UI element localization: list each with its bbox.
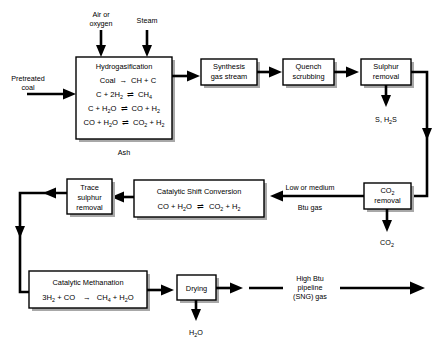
product-output-arrow: [340, 282, 425, 295]
synthesis-gas-label-line1: Synthesis: [213, 62, 245, 71]
methanation-to-drying-arrow: [147, 285, 174, 296]
air-oxygen-input-arrow: [96, 30, 106, 57]
quench-to-sulphur-arrow: [334, 67, 359, 78]
methanation-title: Catalytic Methanation: [52, 278, 123, 287]
drying-to-product-arrow: [216, 283, 243, 294]
low-btu-gas-label-line2: Btu gas: [298, 203, 323, 212]
methanation-equation: 3H2 + CO→CH4 + H2O: [42, 293, 133, 303]
shift-conversion-title: Catalytic Shift Conversion: [157, 187, 242, 196]
synthesis-gas-label-line2: gas stream: [211, 72, 248, 81]
water-byproduct-arrow: [191, 300, 201, 321]
steam-label: Steam: [137, 16, 158, 25]
air-oxygen-label-line1: Air or: [92, 10, 110, 19]
shift-conversion-equation: CO + H2O⇌CO2 + H2: [158, 202, 241, 212]
co2-byproduct-label: CO2: [380, 238, 394, 248]
air-oxygen-label-line2: oxygen: [89, 19, 112, 28]
high-btu-label-line2: pipeline: [298, 283, 323, 292]
trace-sulphur-label-line2: sulphur: [77, 193, 102, 202]
hydrogasification-title: Hydrogasification: [96, 62, 153, 71]
process-flow-diagram: Air or oxygen Steam Pretreated coal Hydr…: [0, 0, 435, 344]
catalytic-shift-conversion-box[interactable]: [134, 180, 264, 217]
high-btu-label-line3: (SNG) gas: [293, 292, 327, 301]
quench-label-line1: Quench: [296, 62, 322, 71]
trace-sulphur-label-line1: Trace: [80, 183, 99, 192]
flow-diagram-canvas: Air or oxygen Steam Pretreated coal Hydr…: [0, 0, 435, 344]
ash-output-label: Ash: [118, 148, 130, 157]
pretreated-coal-label-line2: coal: [21, 83, 35, 92]
sulphur-removal-label-line2: removal: [373, 72, 400, 81]
drying-label: Drying: [186, 284, 207, 293]
pretreated-coal-label-line1: Pretreated: [11, 74, 45, 83]
low-btu-gas-label-line1: Low or medium: [285, 183, 334, 192]
hydrogasification-equation-3: C + H2O⇌CO + H2: [88, 104, 160, 114]
trace-sulphur-label-line3: removal: [76, 203, 103, 212]
co2-to-shift-arrow: [270, 191, 364, 202]
sulphur-byproduct-label: S, H2S: [375, 115, 397, 125]
sulphur-removal-label-line1: Sulphur: [373, 62, 399, 71]
catalytic-methanation-box[interactable]: [29, 271, 147, 308]
steam-input-arrow: [142, 30, 152, 57]
high-btu-label-line1: High Btu: [296, 274, 324, 283]
synthesis-to-quench-arrow: [257, 67, 282, 78]
sulphur-to-co2-route: [411, 72, 432, 196]
co2-byproduct-arrow: [382, 209, 392, 232]
co2-removal-label-line2: removal: [374, 196, 401, 205]
quench-label-line2: scrubbing: [292, 72, 324, 81]
hydrogasification-to-synthesis-arrow: [172, 71, 200, 82]
hydrogasification-equation-4: CO + H2O⇌CO2 + H2: [84, 118, 165, 128]
sulphur-byproduct-arrow: [381, 85, 391, 107]
water-byproduct-label: H2O: [189, 328, 203, 338]
